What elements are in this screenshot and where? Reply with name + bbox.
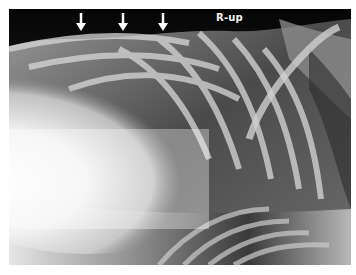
chest-xray-image: R-up [9, 9, 351, 265]
xray-graphic [9, 9, 351, 265]
orientation-label: R-up [216, 12, 243, 23]
